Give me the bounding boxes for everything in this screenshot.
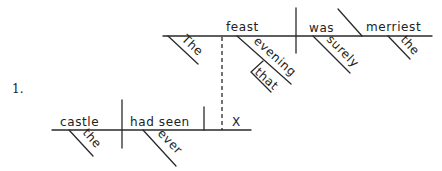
sub-object: X (232, 115, 241, 129)
predicate-adjective-divider (338, 9, 362, 36)
modifier-that: that (252, 65, 281, 93)
sentence-diagram: 1. feast was merriest The evening that s… (0, 0, 442, 171)
main-verb: was (309, 21, 334, 35)
modifier-surely: surely (324, 32, 362, 70)
subordinate-clause: castle had seen X the ever (52, 100, 251, 166)
main-clause: feast was merriest The evening that sure… (163, 8, 432, 93)
main-subject: feast (226, 20, 259, 34)
sub-verb: had seen (130, 115, 190, 129)
sub-subject: castle (60, 115, 99, 129)
modifier-ever: ever (155, 126, 185, 157)
exercise-number: 1. (12, 82, 23, 96)
predicate-adjective: merriest (366, 20, 421, 34)
